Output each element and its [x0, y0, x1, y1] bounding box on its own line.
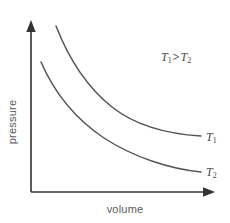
- curve-label-t1-subscript: 1: [213, 136, 217, 145]
- curve-label-t2-symbol: T: [206, 165, 213, 179]
- curve-label-t2-subscript: 2: [213, 171, 217, 180]
- y-axis-label: pressure: [6, 91, 18, 153]
- isotherm-curve-t2: [41, 62, 201, 172]
- annotation-relation-operator: >: [172, 50, 181, 64]
- curve-label-t1-symbol: T: [206, 130, 213, 144]
- pressure-volume-diagram: pressure volume T1 T2 T1>T2: [0, 0, 230, 223]
- chart-canvas: [0, 0, 230, 223]
- annotation-right-subscript: 2: [187, 56, 191, 65]
- curve-label-t1: T1: [206, 130, 217, 145]
- x-axis-arrowhead-icon: [203, 187, 215, 196]
- annotation-left-symbol: T: [161, 50, 168, 64]
- isotherm-curve-t1: [56, 26, 201, 136]
- curve-label-t2: T2: [206, 165, 217, 180]
- x-axis-label: volume: [79, 203, 171, 215]
- y-axis-arrowhead-icon: [26, 20, 35, 32]
- temperature-relation-annotation: T1>T2: [161, 50, 191, 65]
